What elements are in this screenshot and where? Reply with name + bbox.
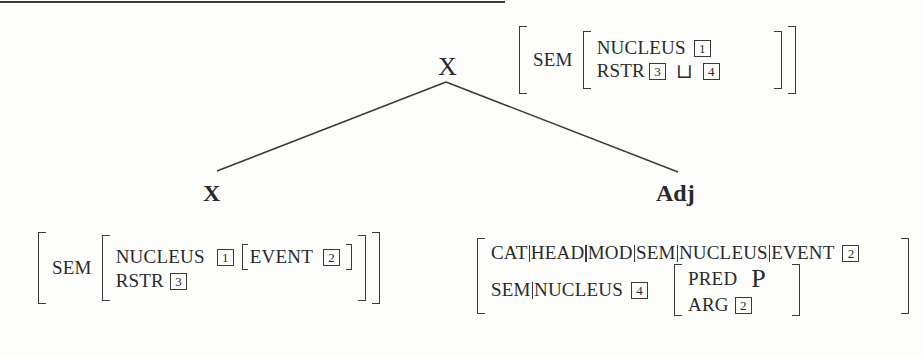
root-avm: SEM NUCLEUS 1 RSTR 3 ⊔ 4	[519, 26, 796, 94]
nucleus-value-avm: PRED P ARG 2	[674, 264, 800, 316]
sem-value-avm: NUCLEUS 1 EVENT 2 RSTR 3	[102, 235, 366, 301]
right-node-label: Adj	[656, 180, 695, 207]
path-feature: SEM	[491, 279, 531, 301]
feature-name: NUCLEUS	[597, 37, 686, 59]
feature-name: NUCLEUS	[116, 246, 205, 268]
join-operator: ⊔	[676, 59, 693, 83]
path-feature: MOD	[588, 242, 633, 264]
coindex-tag: 1	[694, 40, 711, 57]
sem-nucleus-row: SEM NUCLEUS 4 PRED P ARG 2	[491, 264, 895, 316]
arg-row: ARG 2	[688, 294, 766, 316]
event-avm: EVENT 2	[242, 244, 352, 270]
rstr-row: RSTR 3 ⊔ 4	[597, 59, 768, 83]
coindex-tag: 4	[703, 63, 720, 80]
coindex-tag: 3	[170, 273, 187, 290]
path-feature: HEAD	[531, 242, 585, 264]
left-branch	[217, 82, 446, 171]
feature-name: RSTR	[116, 270, 164, 292]
bracket-left	[519, 26, 527, 94]
bracket-right	[788, 26, 796, 94]
coindex-tag: 2	[842, 245, 859, 262]
path-feature: CAT	[491, 242, 528, 264]
left-avm: SEM NUCLEUS 1 EVENT 2	[38, 232, 380, 304]
rstr-row: RSTR 3	[116, 270, 352, 292]
nucleus-row: NUCLEUS 1 EVENT 2	[116, 244, 352, 270]
sem-value-avm: NUCLEUS 1 RSTR 3 ⊔ 4	[583, 31, 782, 89]
coindex-tag: 3	[649, 63, 666, 80]
nucleus-row: NUCLEUS 1	[597, 37, 768, 59]
coindex-tag: 2	[735, 297, 752, 314]
right-avm: CAT HEAD MOD SEM NUCLEUS EVENT 2 SEM NUC…	[477, 238, 909, 314]
mod-path-row: CAT HEAD MOD SEM NUCLEUS EVENT 2	[491, 242, 895, 264]
feature-name: ARG	[688, 294, 729, 316]
sem-feature: SEM	[52, 257, 92, 279]
path-feature: EVENT	[771, 242, 834, 264]
path-feature: NUCLEUS	[534, 279, 623, 301]
coindex-tag: 2	[323, 249, 340, 266]
right-branch	[446, 82, 678, 172]
pred-value: P	[751, 264, 765, 294]
pred-row: PRED P	[688, 264, 766, 294]
sem-feature: SEM	[533, 49, 573, 71]
feature-name: RSTR	[597, 60, 645, 82]
coindex-tag: 1	[217, 249, 234, 266]
path-feature: SEM	[636, 242, 676, 264]
root-node-label: X	[438, 52, 457, 82]
coindex-tag: 4	[631, 282, 648, 299]
feature-name: PRED	[688, 268, 737, 290]
path-feature: NUCLEUS	[679, 242, 768, 264]
left-node-label: X	[203, 180, 220, 207]
feature-name: EVENT	[250, 246, 313, 268]
